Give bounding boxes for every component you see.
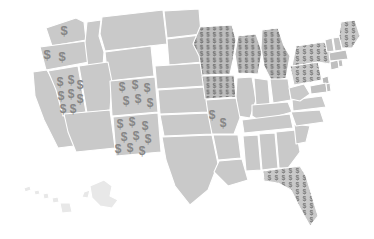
dollar-sign-icon: $ (115, 142, 122, 156)
state-mt[interactable] (100, 10, 167, 51)
dollar-sign-icon: $ (127, 141, 134, 155)
dollar-sign-icon: $ (123, 94, 130, 108)
state-fl[interactable] (263, 166, 318, 226)
dollar-sign-icon: $ (77, 78, 84, 92)
state-la[interactable] (214, 159, 248, 186)
dollar-sign-icon: $ (133, 129, 140, 143)
dollar-sign-icon: $ (144, 81, 151, 95)
dollar-sign-icon: $ (135, 92, 142, 106)
state-ks[interactable] (158, 87, 208, 114)
dollar-sign-icon: $ (60, 23, 68, 38)
dollar-sign-icon: $ (119, 80, 126, 94)
state-ak[interactable] (82, 180, 118, 208)
dollar-sign-icon: $ (68, 73, 75, 87)
state-nd[interactable] (164, 9, 201, 38)
state-wy[interactable] (105, 46, 154, 81)
state-nc[interactable] (291, 110, 324, 126)
dollar-sign-icon: $ (43, 47, 51, 62)
dollar-sign-icon: $ (58, 89, 65, 103)
state-tx[interactable] (162, 135, 218, 205)
state-mi[interactable] (261, 28, 290, 82)
state-oh[interactable] (270, 79, 291, 103)
state-in[interactable] (254, 78, 270, 106)
dollar-sign-icon: $ (147, 96, 154, 110)
state-wi[interactable] (235, 34, 262, 74)
state-ms[interactable] (243, 135, 261, 171)
dollar-sign-icon: $ (60, 102, 67, 116)
dollar-sign-icon: $ (57, 75, 64, 89)
dollar-sign-icon: $ (117, 117, 124, 131)
state-hi[interactable] (24, 186, 72, 213)
dollar-sign-icon: $ (139, 144, 146, 158)
dollar-sign-icon: $ (220, 116, 227, 130)
state-ia[interactable] (202, 75, 236, 99)
dollar-sign-icon: $ (70, 102, 77, 116)
state-vt[interactable] (325, 38, 334, 52)
state-ar[interactable] (213, 135, 241, 160)
state-ne[interactable] (155, 63, 205, 89)
dollar-sign-icon: $ (77, 92, 84, 106)
us-dollar-density-map: $ $ (0, 0, 374, 239)
dollar-sign-icon: $ (58, 49, 66, 64)
dollar-sign-icon: $ (142, 119, 149, 133)
state-ct[interactable] (330, 60, 339, 70)
dollar-sign-icon: $ (209, 108, 216, 122)
state-al[interactable] (259, 133, 278, 170)
state-de[interactable] (326, 83, 331, 92)
state-md[interactable] (310, 83, 327, 94)
dollar-sign-icon: $ (145, 132, 152, 146)
dollar-sign-icon: $ (132, 78, 139, 92)
state-sc[interactable] (294, 124, 310, 144)
state-shapes-layer (24, 9, 360, 226)
dollar-sign-icon: $ (129, 115, 136, 129)
state-me[interactable] (339, 20, 360, 48)
dollar-sign-icon: $ (68, 87, 75, 101)
us-map-svg: $ $ (0, 0, 374, 239)
state-ok[interactable] (160, 113, 212, 136)
